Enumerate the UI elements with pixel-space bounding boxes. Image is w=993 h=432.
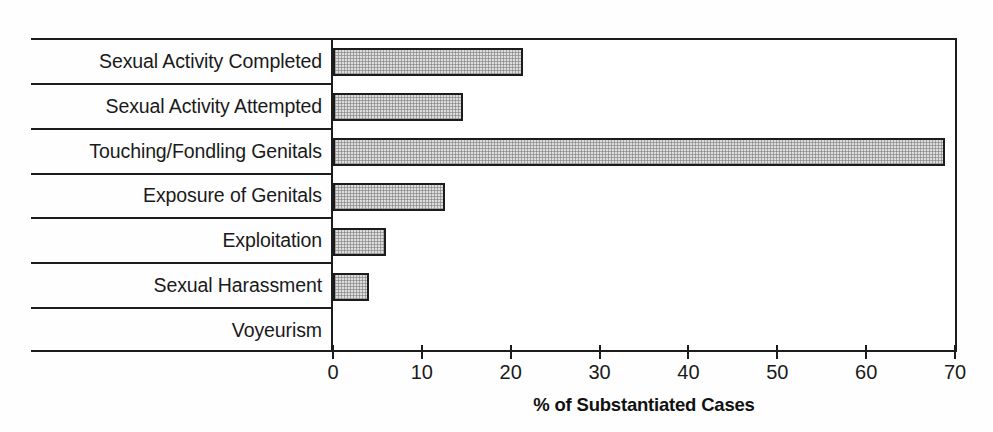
bar-row [333, 309, 955, 354]
bar [333, 273, 369, 301]
bar-row [333, 264, 955, 309]
row-separator [333, 219, 955, 221]
x-tick-label: 50 [766, 361, 788, 384]
category-label: Sexual Activity Attempted [106, 95, 331, 118]
x-tick-label: 60 [855, 361, 877, 384]
x-tick-label: 30 [588, 361, 610, 384]
bar [333, 228, 386, 256]
category-label-row: Exploitation [31, 217, 331, 262]
row-separator [333, 130, 955, 132]
category-label: Sexual Activity Completed [99, 50, 331, 73]
x-tick-mark [599, 345, 601, 359]
x-tick-label: 0 [327, 361, 338, 384]
row-separator [333, 264, 955, 266]
category-label-row: Sexual Activity Attempted [31, 83, 331, 128]
category-label-column: Sexual Activity CompletedSexual Activity… [31, 38, 331, 352]
x-tick-label: 40 [677, 361, 699, 384]
bar-row [333, 219, 955, 264]
x-tick-mark [510, 345, 512, 359]
bars-container [333, 40, 955, 350]
axis-baseline-left [31, 350, 333, 352]
bar [333, 48, 523, 76]
x-tick-mark [776, 345, 778, 359]
bar-row [333, 130, 955, 175]
x-tick-label: 10 [411, 361, 433, 384]
x-axis: % of Substantiated Cases 010203040506070 [331, 352, 957, 432]
category-label: Sexual Harassment [154, 274, 331, 297]
bar-row [333, 40, 955, 85]
bar [333, 93, 463, 121]
category-label: Touching/Fondling Genitals [89, 140, 331, 163]
category-label-row: Sexual Activity Completed [31, 38, 331, 83]
bar-chart: Sexual Activity CompletedSexual Activity… [0, 0, 993, 432]
row-separator [333, 175, 955, 177]
x-tick-mark [332, 345, 334, 359]
category-label: Exploitation [222, 229, 331, 252]
bar-row [333, 85, 955, 130]
row-separator [333, 309, 955, 311]
category-label: Voyeurism [232, 319, 331, 342]
bar [333, 138, 945, 166]
x-tick-label: 70 [944, 361, 966, 384]
x-tick-mark [687, 345, 689, 359]
category-label-row: Voyeurism [31, 307, 331, 352]
bar [333, 183, 445, 211]
x-tick-mark [865, 345, 867, 359]
x-tick-mark [954, 345, 956, 359]
category-label-row: Exposure of Genitals [31, 173, 331, 218]
category-label-row: Touching/Fondling Genitals [31, 128, 331, 173]
plot-area [331, 38, 957, 352]
category-label-row: Sexual Harassment [31, 262, 331, 307]
bar-row [333, 175, 955, 220]
x-axis-title: % of Substantiated Cases [331, 394, 957, 416]
category-label: Exposure of Genitals [143, 184, 331, 207]
x-tick-mark [421, 345, 423, 359]
row-separator [333, 85, 955, 87]
x-tick-label: 20 [500, 361, 522, 384]
